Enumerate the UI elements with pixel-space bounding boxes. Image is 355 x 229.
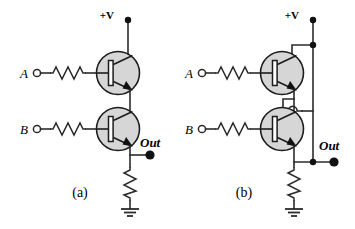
supply-label-a: +V <box>100 9 114 21</box>
panel-b: +V A B <box>184 9 340 216</box>
panel-caption-b: (b) <box>236 185 253 201</box>
input-resistor-b-bottom <box>215 123 251 135</box>
output-label-b: Out <box>319 138 340 153</box>
output-terminal-a <box>145 150 154 159</box>
input-terminal-b-bottom <box>198 125 205 132</box>
transistor-b-top <box>261 52 304 95</box>
input-terminal-a-top <box>33 69 40 76</box>
ground-symbol-b <box>285 209 303 216</box>
input-label-b-top: A <box>184 66 193 81</box>
output-terminal-b <box>329 157 338 166</box>
figure-root: +V A B Out <box>0 0 355 229</box>
supply-terminal-dot-a <box>125 17 131 23</box>
output-label-a: Out <box>140 135 161 150</box>
supply-junction-dot-b <box>310 42 316 48</box>
pulldown-resistor-a <box>124 167 136 201</box>
output-junction-dot-b <box>310 159 316 165</box>
input-terminal-a-bottom <box>33 125 40 132</box>
input-resistor-a-top <box>50 67 86 79</box>
ground-symbol-a <box>121 209 139 216</box>
input-resistor-b-top <box>215 67 251 79</box>
supply-terminal-dot-b <box>310 17 316 23</box>
panel-caption-a: (a) <box>72 185 88 201</box>
transistor-b-bottom <box>261 108 304 151</box>
circuit-diagram-svg: +V A B Out <box>0 0 355 229</box>
transistor-a-bottom <box>97 108 140 151</box>
input-terminal-b-top <box>198 69 205 76</box>
pulldown-resistor-b <box>288 167 300 201</box>
input-label-a-bottom: B <box>20 122 28 137</box>
input-label-a-top: A <box>19 66 28 81</box>
input-label-b-bottom: B <box>185 122 193 137</box>
supply-label-b: +V <box>285 9 299 21</box>
input-resistor-a-bottom <box>50 123 86 135</box>
panel-a: +V A B Out <box>19 9 161 216</box>
transistor-a-top <box>97 52 140 95</box>
